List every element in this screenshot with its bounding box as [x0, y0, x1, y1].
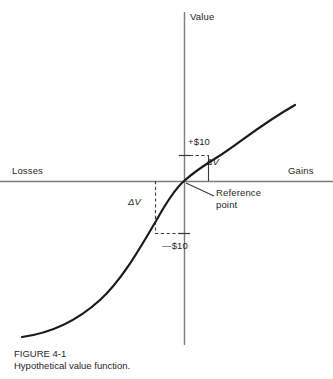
figure-caption-text: Hypothetical value function. [14, 360, 314, 372]
reference-point-leader-line [186, 183, 214, 196]
reference-point-label-line1: Reference [216, 187, 290, 199]
reference-point-label: Reference point [216, 187, 290, 210]
figure-caption: FIGURE 4-1 Hypothetical value function. [14, 348, 314, 372]
reference-point-label-line2: point [216, 199, 290, 211]
x-axis-right-label: Gains [288, 165, 314, 176]
loss-amount-label: —$10 [162, 240, 188, 251]
value-function-curve [22, 105, 295, 337]
gain-amount-label: +$10 [188, 136, 210, 147]
loss-delta-value-label: ΔV [128, 196, 141, 207]
gain-delta-value-label: ΔV [206, 156, 219, 167]
figure-number: FIGURE 4-1 [14, 348, 314, 360]
x-axis-left-label: Losses [12, 165, 43, 176]
figure-container: Value Losses Gains +$10 —$10 ΔV ΔV Refer… [0, 0, 333, 379]
y-axis-label: Value [190, 11, 214, 22]
